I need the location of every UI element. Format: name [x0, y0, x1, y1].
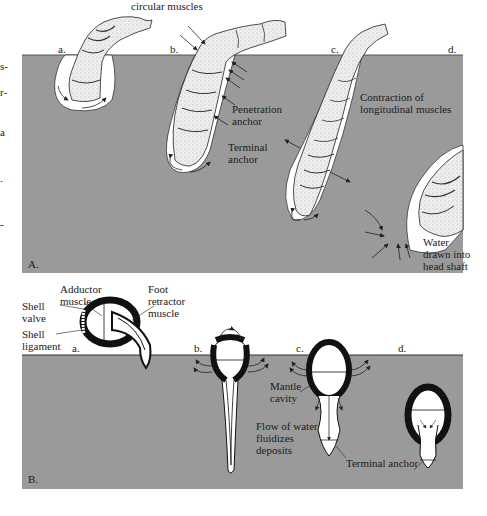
label-line: Flow of water — [256, 420, 318, 432]
label-foot-retractor-muscle: Foot retractor muscle — [148, 283, 185, 319]
label-line: Water — [423, 236, 470, 248]
stage-d-label: d. — [448, 43, 456, 55]
label-line: fluidizes — [256, 432, 318, 444]
label-flow-of-water: Flow of water fluidizes deposits — [256, 420, 318, 456]
label-contraction: Contraction of longitudinal muscles — [360, 91, 451, 115]
label-terminal-anchor-b: Terminal anchor — [346, 457, 418, 469]
label-adductor-muscle: Adductor muscle — [60, 283, 102, 307]
label-line: retractor — [148, 295, 185, 307]
label-line: anchor — [228, 153, 268, 165]
label-line: Mantle — [270, 380, 301, 392]
label-line: muscle — [148, 307, 185, 319]
label-water-drawn: Water drawn into head shaft — [423, 236, 470, 272]
label-line: Terminal — [228, 141, 268, 153]
stage-b-a-label: a. — [72, 342, 80, 354]
stage-b-label: b. — [170, 43, 178, 55]
label-line: deposits — [256, 444, 318, 456]
label-line: cavity — [270, 392, 301, 404]
label-line: Shell — [22, 300, 46, 312]
stage-b-d-label: d. — [398, 342, 406, 354]
label-line: head shaft — [423, 260, 470, 272]
stage-b-b-label: b. — [194, 342, 202, 354]
label-line: drawn into — [423, 248, 470, 260]
stage-a-label: a. — [58, 43, 66, 55]
label-line: anchor — [232, 115, 282, 127]
label-line: muscle — [60, 295, 102, 307]
stage-b-c-label: c. — [296, 342, 304, 354]
stage-c-label: c. — [331, 43, 339, 55]
panel-b-letter: B. — [28, 473, 38, 485]
label-penetration-anchor: Penetration anchor — [232, 103, 282, 127]
label-shell-valve: Shell valve — [22, 300, 46, 324]
label-shell-ligament: Shell ligament — [22, 328, 61, 352]
label-line: valve — [22, 312, 46, 324]
label-line: Shell — [22, 328, 61, 340]
label-line: ligament — [22, 340, 61, 352]
label-line: Contraction of — [360, 91, 451, 103]
burrowing-diagram — [0, 0, 487, 516]
label-circular-muscles: circular muscles — [131, 0, 203, 12]
label-line: Penetration — [232, 103, 282, 115]
label-line: Adductor — [60, 283, 102, 295]
label-line: longitudinal muscles — [360, 103, 451, 115]
label-line: Foot — [148, 283, 185, 295]
label-mantle-cavity: Mantle cavity — [270, 380, 301, 404]
panel-a-letter: A. — [28, 258, 39, 270]
label-terminal-anchor-a: Terminal anchor — [228, 141, 268, 165]
